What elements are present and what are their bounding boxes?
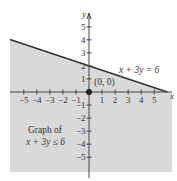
x-tick-label: −2: [58, 95, 68, 105]
x-tick-label: 5: [152, 95, 157, 105]
x-tick-label: 1: [100, 95, 105, 105]
region-label-title: Graph of: [28, 125, 63, 135]
x-tick-label: 3: [126, 95, 131, 105]
inequality-graph: −5−4−3−2−112345 −5−4−3−2−112345 x y (0, …: [0, 0, 177, 181]
shaded-region: [10, 39, 172, 172]
region-label-inequality: x + 3y ≤ 6: [25, 137, 65, 147]
y-axis-label: y: [81, 9, 86, 19]
y-tick-label: 5: [81, 22, 86, 32]
test-point-label: (0, 0): [94, 77, 115, 88]
x-tick-label: −3: [45, 95, 55, 105]
x-tick-label: 2: [113, 95, 118, 105]
boundary-equation-label: x + 3y = 6: [118, 65, 160, 75]
x-tick-label: −4: [32, 95, 42, 105]
y-tick-label: −2: [76, 113, 86, 123]
y-tick-label: −3: [76, 126, 86, 136]
x-tick-label: 4: [139, 95, 144, 105]
x-tick-label: −5: [19, 95, 29, 105]
test-point: [86, 89, 92, 95]
y-tick-label: −1: [76, 100, 86, 110]
y-tick-label: 2: [81, 61, 86, 71]
x-axis-label: x: [169, 91, 174, 101]
y-tick-label: 1: [81, 74, 86, 84]
y-tick-label: 4: [81, 35, 86, 45]
y-tick-label: −4: [76, 139, 86, 149]
y-tick-label: −5: [76, 152, 86, 162]
y-tick-label: 3: [81, 48, 86, 58]
